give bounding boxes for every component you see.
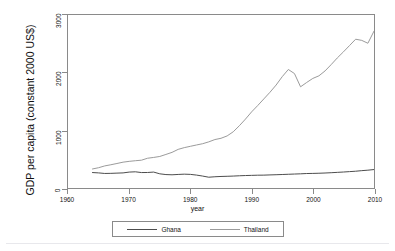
- legend-line-icon: [210, 229, 240, 230]
- legend-item-ghana[interactable]: Ghana: [127, 226, 181, 233]
- y-axis-title: GDP per capita (constant 2000 US$): [24, 20, 36, 200]
- y-tick-label: 1000: [55, 130, 62, 144]
- x-tick-mark: [375, 189, 376, 194]
- x-tick-label: 1960: [52, 196, 82, 203]
- x-axis-title: year: [0, 205, 395, 212]
- x-tick-label: 1980: [175, 196, 205, 203]
- series-line-thailand: [92, 31, 374, 169]
- legend-line-icon: [127, 229, 157, 230]
- x-tick-label: 2010: [360, 196, 390, 203]
- y-tick-label: 3000: [55, 14, 62, 28]
- footer-divider: [6, 243, 389, 244]
- x-tick-mark: [67, 189, 68, 194]
- x-tick-mark: [190, 189, 191, 194]
- legend-label: Ghana: [161, 226, 181, 233]
- x-tick-mark: [313, 189, 314, 194]
- legend-label: Thailand: [244, 226, 269, 233]
- chart-figure: GDP per capita (constant 2000 US$) 01000…: [0, 0, 395, 251]
- legend-item-thailand[interactable]: Thailand: [210, 226, 269, 233]
- plot-area: [67, 14, 375, 189]
- series-lines: [68, 15, 374, 188]
- x-tick-label: 2000: [298, 196, 328, 203]
- y-tick-label: 0: [55, 189, 62, 193]
- x-tick-mark: [252, 189, 253, 194]
- x-tick-mark: [129, 189, 130, 194]
- y-tick-label: 2000: [55, 72, 62, 86]
- series-line-ghana: [92, 170, 374, 178]
- chart-legend: GhanaThailand: [112, 221, 284, 237]
- x-tick-label: 1990: [237, 196, 267, 203]
- x-tick-label: 1970: [114, 196, 144, 203]
